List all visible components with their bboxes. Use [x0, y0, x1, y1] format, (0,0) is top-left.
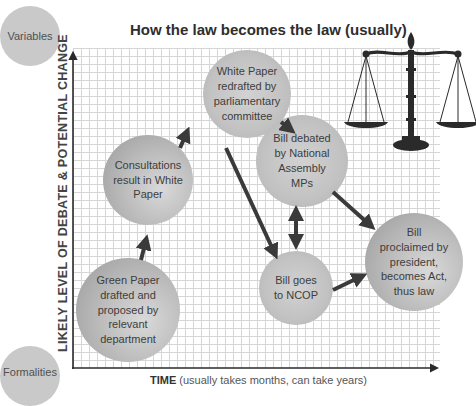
arrow-consultations-to-white: [180, 132, 187, 148]
arrow-white-to-ncop: [226, 148, 275, 254]
y-axis-label: LIKELY LEVEL OF DEBATE & POTENTIAL CHANG…: [56, 62, 70, 352]
arrow-ncop-to-proclaimed: [333, 276, 362, 290]
legend-formalities-label: Formalities: [3, 366, 57, 378]
arrow-green-to-consultations: [141, 240, 146, 260]
x-axis-label: TIME (usually takes months, can take yea…: [150, 374, 367, 386]
x-axis-label-bold: TIME: [150, 374, 176, 386]
legend-formalities: Formalities: [0, 346, 60, 406]
x-axis-label-rest: (usually takes months, can take years): [176, 374, 367, 386]
arrow-white-to-debated: [281, 122, 291, 130]
arrow-debated-to-proclaimed: [333, 192, 371, 226]
